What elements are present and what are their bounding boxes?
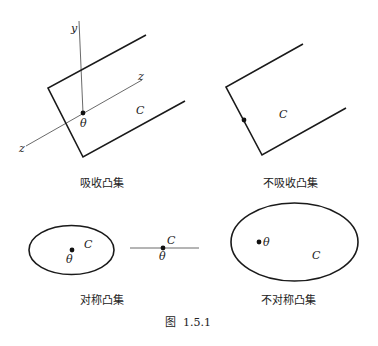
- z-axis-label-end: z: [137, 70, 144, 83]
- panel-absorbing: y z z θ C 吸收凸集: [18, 21, 185, 190]
- ellipse-set-label: C: [84, 238, 93, 251]
- figure-canvas: y z z θ C 吸收凸集 C 不吸收凸集 θ C C θ 对称凸集 θ C …: [0, 0, 378, 346]
- origin-point: [242, 118, 247, 123]
- segment-set-label: C: [167, 234, 176, 247]
- origin-point: [81, 111, 86, 116]
- set-label: C: [279, 108, 288, 121]
- segment-origin-label: θ: [159, 250, 166, 263]
- set-label: C: [312, 249, 321, 262]
- figure-number: 图 1.5.1: [165, 316, 211, 329]
- set-label: C: [136, 104, 145, 117]
- origin-label: θ: [80, 117, 87, 130]
- panel-non-symmetric: θ C 不对称凸集: [231, 203, 358, 307]
- caption-symmetric: 对称凸集: [80, 293, 124, 307]
- origin-point: [257, 240, 262, 245]
- origin-label: θ: [263, 236, 270, 249]
- caption-non-absorbing: 不吸收凸集: [263, 176, 318, 190]
- caption-non-symmetric: 不对称凸集: [261, 293, 316, 307]
- y-axis: [79, 21, 83, 113]
- convex-set-boundary: [48, 35, 185, 157]
- panel-symmetric: θ C C θ 对称凸集: [29, 226, 199, 308]
- z-axis-label-start: z: [18, 142, 25, 155]
- y-axis-label: y: [70, 22, 78, 35]
- ellipse-origin-point: [70, 248, 75, 253]
- convex-set-boundary: [226, 44, 346, 155]
- non-symmetric-ellipse: [231, 203, 358, 281]
- ellipse-origin-label: θ: [66, 253, 73, 266]
- caption-absorbing: 吸收凸集: [80, 176, 124, 190]
- panel-non-absorbing: C 不吸收凸集: [226, 44, 346, 190]
